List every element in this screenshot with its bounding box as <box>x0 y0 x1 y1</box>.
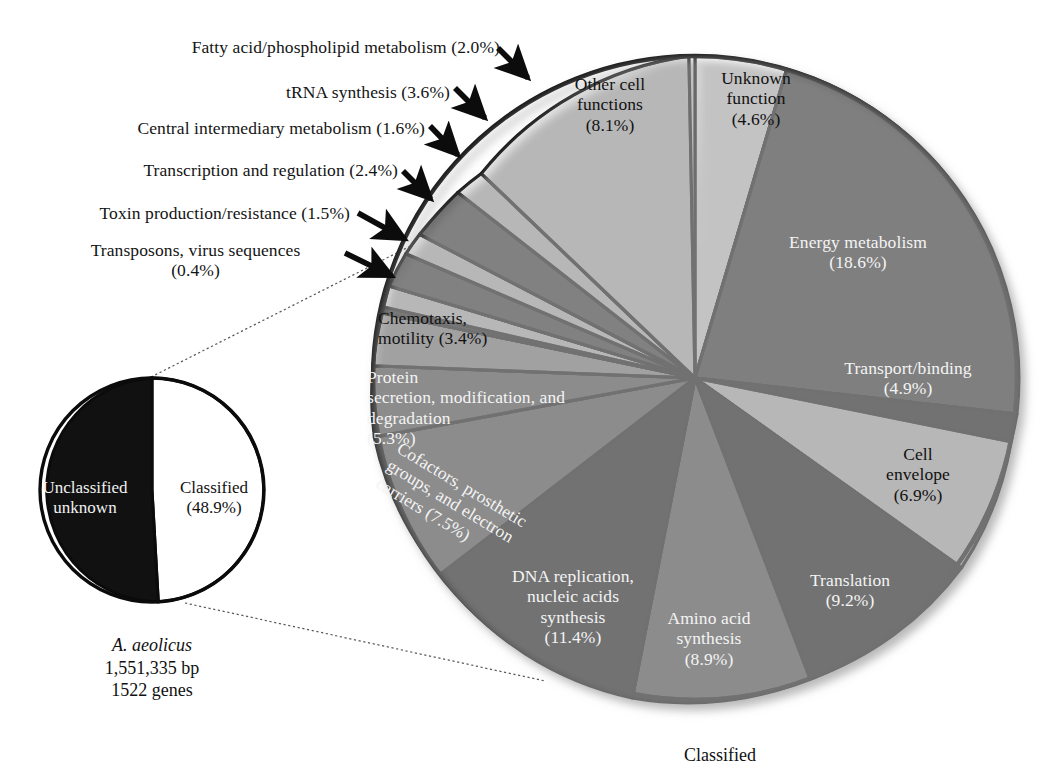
callout-label-toxin-production-resistance: Toxin production/resistance (1.5%) <box>10 203 350 223</box>
inset-label-unclassified-unknown: Unclassified unknown <box>24 478 146 519</box>
arrow-transcription-and-regulation <box>403 171 431 199</box>
figure-canvas: Fatty acid/phospholipid metabolism (2.0%… <box>0 0 1054 781</box>
slice-label-dna-replication-line3: synthesis <box>540 607 605 627</box>
slice-label-translation: Translation (9.2%) <box>770 570 930 611</box>
slice-label-other-cell-functions-line3: (8.1%) <box>586 115 635 135</box>
slice-label-translation-line2: (9.2%) <box>826 590 875 610</box>
slice-label-cell-envelope-line1: Cell <box>903 444 933 464</box>
slice-label-unknown-function-line2: function <box>726 88 785 108</box>
arrow-transposons-virus-sequences <box>345 253 392 276</box>
slice-label-other-cell-functions-line1: Other cell <box>575 74 645 94</box>
arrow-toxin-production-resistance <box>358 213 405 239</box>
slice-label-chemotaxis-line1: Chemotaxis, <box>378 308 467 328</box>
arrow-fatty-acid-phospholipid-metabolism <box>498 48 528 78</box>
slice-label-protein-secretion-line4: (5.3%) <box>367 428 416 448</box>
slice-label-protein-secretion-line3: degradation <box>367 408 451 428</box>
slice-label-unknown-function: Unknown function (4.6%) <box>695 68 817 129</box>
callout-label-transposons-virus-sequences: Transposons, virus sequences (0.4%) <box>48 240 343 281</box>
inset-label-classified-line2: (48.9%) <box>186 498 241 517</box>
slice-label-transport-binding-line2: (4.9%) <box>884 378 933 398</box>
inset-caption-bp: 1,551,335 bp <box>105 658 200 678</box>
inset-caption-genes: 1522 genes <box>111 680 192 700</box>
slice-label-other-cell-functions-line2: functions <box>577 94 643 114</box>
slice-label-energy-metabolism-line1: Energy metabolism <box>789 232 927 252</box>
slice-label-transport-binding: Transport/binding (4.9%) <box>808 358 1008 399</box>
arrow-central-intermediary-metabolism <box>430 126 458 155</box>
slice-label-chemotaxis-line2: motility (3.4%) <box>378 328 487 348</box>
slice-label-amino-acid-synthesis-line3: (8.9%) <box>685 649 734 669</box>
slice-label-cell-envelope-line3: (6.9%) <box>894 485 943 505</box>
slice-label-protein-secretion: Protein secretion, modification, and deg… <box>367 367 657 449</box>
inset-label-classified: Classified (48.9%) <box>156 478 272 519</box>
inset-label-unclassified-line1: Unclassified <box>43 478 128 497</box>
callout-label-transcription-and-regulation: Transcription and regulation (2.4%) <box>40 160 398 180</box>
slice-label-cell-envelope: Cell envelope (6.9%) <box>855 444 981 505</box>
slice-label-transport-binding-line1: Transport/binding <box>844 358 971 378</box>
slice-label-energy-metabolism-line2: (18.6%) <box>829 252 887 272</box>
slice-label-chemotaxis-motility: Chemotaxis, motility (3.4%) <box>378 308 568 349</box>
slice-label-cell-envelope-line2: envelope <box>886 464 950 484</box>
slice-label-translation-line1: Translation <box>810 570 890 590</box>
slice-label-unknown-function-line3: (4.6%) <box>732 109 781 129</box>
inset-label-classified-line1: Classified <box>180 478 248 497</box>
slice-label-protein-secretion-line1: Protein <box>367 367 418 387</box>
arrow-trna-synthesis <box>455 88 485 118</box>
bottom-caption: Classified <box>620 745 820 766</box>
inset-pie-caption: A. aeolicus 1,551,335 bp 1522 genes <box>12 634 292 702</box>
slice-label-dna-replication-line4: (11.4%) <box>545 627 602 647</box>
callout-label-fatty-acid-phospholipid-metabolism: Fatty acid/phospholipid metabolism (2.0%… <box>100 37 500 57</box>
inset-label-unclassified-line2: unknown <box>53 498 116 517</box>
inset-caption-species: A. aeolicus <box>12 634 292 657</box>
callout-label-central-intermediary-metabolism: Central intermediary metabolism (1.6%) <box>40 118 425 138</box>
callout-label-transposons-line1: Transposons, virus sequences <box>91 240 301 260</box>
slice-label-other-cell-functions: Other cell functions (8.1%) <box>540 74 680 135</box>
slice-label-protein-secretion-line2: secretion, modification, and <box>367 387 565 407</box>
callout-label-trna-synthesis: tRNA synthesis (3.6%) <box>100 82 450 102</box>
slice-label-amino-acid-synthesis-line1: Amino acid <box>667 608 750 628</box>
slice-label-energy-metabolism: Energy metabolism (18.6%) <box>758 232 958 273</box>
slice-label-unknown-function-line1: Unknown <box>721 68 791 88</box>
slice-label-amino-acid-synthesis-line2: synthesis <box>676 628 741 648</box>
callout-label-transposons-line2: (0.4%) <box>171 260 220 280</box>
